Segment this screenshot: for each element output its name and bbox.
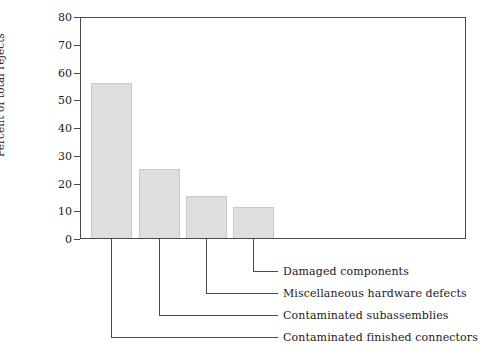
callout-leader-horizontal	[253, 271, 279, 272]
bar	[186, 196, 227, 238]
callout-leader-vertical	[206, 239, 207, 293]
callout-label: Miscellaneous hardware defects	[283, 288, 467, 299]
y-tick-label: 60	[42, 67, 72, 78]
bar	[233, 207, 274, 238]
callout-leader-horizontal	[111, 337, 279, 338]
callout-label: Contaminated subassemblies	[283, 310, 449, 321]
plot-area	[80, 17, 466, 239]
callout-leader-vertical	[159, 239, 160, 315]
callout-label: Damaged components	[283, 266, 409, 277]
y-axis-title: Percent of total rejects	[0, 0, 6, 245]
callout-leader-vertical	[253, 239, 254, 271]
y-tick-label: 80	[42, 12, 72, 23]
y-tick-label: 50	[42, 95, 72, 106]
y-tick-label: 40	[42, 123, 72, 134]
y-tick-label: 70	[42, 39, 72, 50]
y-tick-label: 20	[42, 178, 72, 189]
callout-leader-horizontal	[159, 315, 279, 316]
y-tick-label: 0	[42, 234, 72, 245]
y-tick-label: 10	[42, 206, 72, 217]
callout-label: Contaminated finished connectors	[283, 332, 478, 343]
chart-canvas: Percent of total rejects 010203040506070…	[0, 0, 491, 364]
bar	[91, 83, 132, 238]
y-tick-mark	[74, 239, 80, 240]
y-tick-label: 30	[42, 150, 72, 161]
callout-leader-horizontal	[206, 293, 279, 294]
callout-leader-vertical	[111, 239, 112, 337]
bar	[139, 169, 180, 238]
